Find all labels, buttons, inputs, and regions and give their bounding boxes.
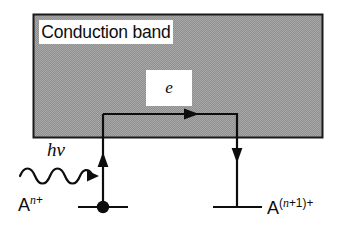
- acceptor-species-label: A(n+1)+: [267, 199, 313, 217]
- acceptor-species-symbol: A: [267, 198, 279, 218]
- photon-h-symbol: h: [47, 139, 57, 160]
- conduction-band-label: Conduction band: [41, 22, 170, 43]
- donor-species-symbol: A: [18, 195, 30, 215]
- photon-energy-label: hν: [47, 140, 65, 159]
- conduction-band-label-plate: Conduction band: [39, 20, 173, 44]
- photon-nu-symbol: ν: [57, 139, 65, 160]
- electron-label-plate: e: [146, 70, 192, 106]
- electron-label: e: [165, 78, 173, 98]
- donor-charge-superscript: n+: [30, 193, 43, 207]
- photon-wave-arrow: [20, 169, 99, 184]
- acceptor-charge-superscript: (n+1)+: [279, 196, 313, 210]
- donor-level-line: [78, 201, 128, 213]
- figure-canvas: Conduction band e hν An+ A(n+1)+: [0, 0, 359, 238]
- donor-species-label: An+: [18, 196, 43, 214]
- electron-dot: [97, 201, 109, 213]
